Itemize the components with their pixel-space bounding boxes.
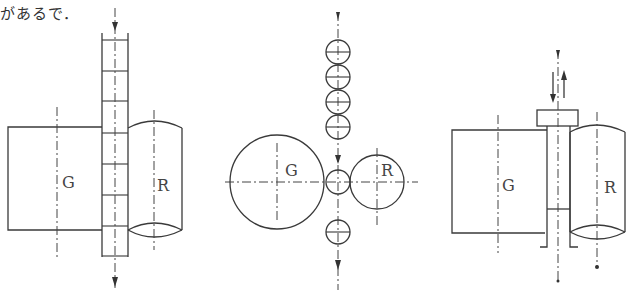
label-g-right: G: [502, 176, 515, 195]
figure-right: G R: [452, 50, 625, 283]
label-r-right: R: [604, 178, 617, 197]
guide-brackets: [540, 209, 578, 247]
arrow-up-icon: [561, 70, 567, 80]
regulating-wheel-left: R: [128, 110, 182, 250]
arrow-down-icon: [335, 155, 341, 164]
arrow-tip-icon: [336, 12, 340, 20]
arrow-tip-icon: [556, 50, 560, 58]
workpiece-strip-left: [102, 8, 128, 288]
arrow-down-icon: [112, 277, 118, 287]
axis-end-dot: [557, 280, 560, 283]
label-g-left: G: [62, 173, 75, 192]
regulating-wheel-right: R: [570, 112, 625, 268]
axis-end-dot: [595, 265, 599, 269]
arrow-down-icon: [112, 22, 118, 31]
figure-middle: G R: [225, 12, 418, 290]
label-r-middle: R: [381, 161, 394, 180]
label-r-left: R: [157, 176, 170, 195]
label-g-middle: G: [285, 161, 298, 180]
arrow-down-icon: [550, 94, 556, 103]
figure-left: G R: [8, 8, 182, 288]
centerless-grinding-diagrams: G R: [0, 0, 631, 307]
grinding-wheel-right: G: [452, 115, 547, 253]
regulating-wheel-middle: R: [350, 148, 404, 226]
grinding-wheel-left: G: [8, 107, 102, 260]
arrow-down-icon: [335, 260, 341, 270]
